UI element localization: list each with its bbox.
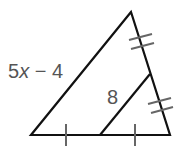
left-side-label: 5x − 4 xyxy=(8,60,63,82)
midsegment-label: 8 xyxy=(107,86,118,108)
triangle-diagram: 5x − 4 8 xyxy=(0,0,186,154)
